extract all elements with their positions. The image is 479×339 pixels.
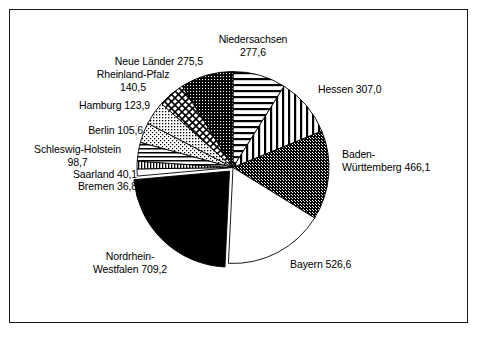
label-saarland: Saarland 40,1 xyxy=(19,168,137,181)
label-nordrhein-westfalen: Nordrhein- Westfalen 709,2 xyxy=(75,250,185,275)
label-niedersachsen-name: Niedersachsen xyxy=(193,33,313,46)
label-niedersachsen: Niedersachsen 277,6 xyxy=(193,33,313,58)
label-rheinland-pfalz: Rheinland-Pfalz 140,5 xyxy=(78,68,188,93)
label-bremen: Bremen 36,8 xyxy=(19,180,137,193)
label-niedersachsen-value: 277,6 xyxy=(193,46,313,59)
label-bayern: Bayern 526,6 xyxy=(290,258,351,271)
label-hessen: Hessen 307,0 xyxy=(318,83,382,96)
label-baden-wuerttemberg: Baden- Württemberg 466,1 xyxy=(342,148,430,173)
label-schleswig-holstein: Schleswig-Holstein 98,7 xyxy=(15,143,140,168)
label-berlin: Berlin 105,6 xyxy=(30,124,143,137)
chart-plot-area: Niedersachsen 277,6 Hessen 307,0 Baden- … xyxy=(0,0,479,339)
label-hamburg: Hamburg 123,9 xyxy=(25,99,150,112)
label-neue-laender: Neue Länder 275,5 xyxy=(48,55,203,68)
pie-slice-group xyxy=(134,72,329,268)
